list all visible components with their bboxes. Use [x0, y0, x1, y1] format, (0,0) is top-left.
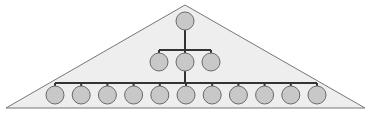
node-level-3 — [282, 86, 300, 104]
node-level-3 — [72, 86, 90, 104]
node-level-3 — [98, 86, 116, 104]
node-level-3 — [177, 86, 195, 104]
node-level-3 — [46, 86, 64, 104]
node-level-3 — [151, 86, 169, 104]
node-level-1 — [176, 12, 194, 30]
node-level-3 — [229, 86, 247, 104]
node-group — [46, 12, 326, 104]
node-level-2 — [176, 53, 194, 71]
node-level-3 — [256, 86, 274, 104]
node-level-3 — [308, 86, 326, 104]
node-level-3 — [203, 86, 221, 104]
hierarchy-pyramid-diagram — [0, 0, 371, 115]
node-level-2 — [150, 53, 168, 71]
node-level-3 — [125, 86, 143, 104]
node-level-2 — [202, 53, 220, 71]
